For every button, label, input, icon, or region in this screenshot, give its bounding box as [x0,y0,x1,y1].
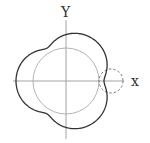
y-axis-label: Y [60,4,71,20]
x-axis-label: x [131,73,139,89]
diagram-svg: Y x [0,0,150,143]
diagram-canvas: Y x [0,0,150,143]
